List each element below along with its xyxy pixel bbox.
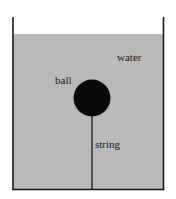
ball-in-water-diagram: water ball string	[0, 0, 176, 199]
string-label: string	[95, 138, 121, 150]
ball-shape	[74, 80, 111, 117]
water-label: water	[117, 51, 142, 63]
ball-label: ball	[55, 74, 72, 86]
